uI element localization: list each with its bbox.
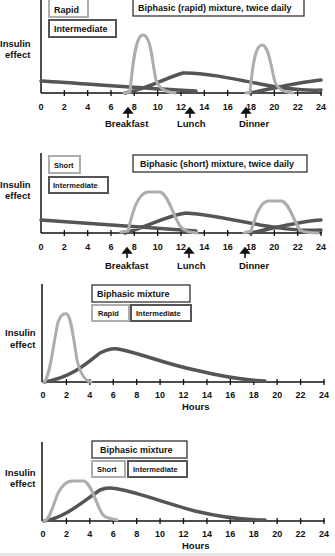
x-tick-label: 24 — [319, 529, 329, 539]
x-tick-label: 20 — [269, 242, 279, 252]
x-tick-label: 2 — [64, 529, 69, 539]
chart-4-short-mixture: 024681012141618202224 Insulin effect Hou… — [5, 441, 329, 551]
y-axis-label-line2: effect — [10, 339, 36, 350]
x-tick-label: 10 — [153, 102, 163, 112]
event-label-dinner: Dinner — [239, 260, 269, 271]
x-tick-label: 8 — [134, 529, 139, 539]
x-tick-label: 12 — [176, 242, 186, 252]
intermediate-curve — [41, 213, 321, 233]
chart-title: Biphasic (rapid) mixture, twice daily — [138, 3, 292, 13]
x-tick-label: 22 — [296, 390, 306, 400]
chart-title: Biphasic (short) mixture, twice daily — [140, 159, 294, 169]
legend-intermediate-label: Intermediate — [53, 181, 98, 190]
x-tick-label: 2 — [64, 390, 69, 400]
x-tick-label: 16 — [223, 242, 233, 252]
arrow-up-icon — [185, 248, 193, 258]
x-tick-label: 14 — [202, 390, 212, 400]
y-axis-label-line2: effect — [5, 49, 31, 60]
y-axis-label-line2: effect — [10, 478, 36, 489]
x-tick-label: 24 — [316, 102, 326, 112]
event-label-breakfast: Breakfast — [105, 118, 149, 129]
chart-1-rapid-twice-daily: 024681012141618202224 Insulin effect Rap… — [0, 0, 326, 129]
x-tick-label: 16 — [225, 529, 235, 539]
x-tick-label: 14 — [199, 102, 209, 112]
chart-3-rapid-mixture: 024681012141618202224 Insulin effect Hou… — [5, 284, 329, 412]
x-tick-label: 8 — [132, 242, 137, 252]
x-tick-label: 24 — [316, 242, 326, 252]
x-tick-label: 6 — [108, 242, 113, 252]
x-tick-label: 0 — [40, 529, 45, 539]
x-tick-label: 10 — [153, 242, 163, 252]
x-tick-label: 4 — [87, 390, 92, 400]
y-axis-label-line1: Insulin — [0, 38, 31, 49]
legend-intermediate-label: Intermediate — [133, 465, 178, 474]
x-tick-label: 20 — [272, 529, 282, 539]
x-tick-label: 12 — [178, 529, 188, 539]
chart-title: Biphasic mixture — [100, 445, 173, 455]
x-axis-label: Hours — [182, 401, 209, 412]
x-tick-label: 10 — [155, 390, 165, 400]
x-tick-label: 0 — [38, 102, 43, 112]
x-axis-label: Hours — [182, 540, 209, 551]
x-tick-label: 20 — [269, 102, 279, 112]
event-label-dinner: Dinner — [239, 118, 269, 129]
x-tick-label: 16 — [225, 390, 235, 400]
chart-2-short-twice-daily: 024681012141618202224 Insulin effect Sho… — [0, 153, 326, 271]
x-tick-label: 6 — [108, 102, 113, 112]
y-axis-label-line1: Insulin — [5, 327, 36, 338]
legend-rapid-label: Rapid — [54, 5, 79, 15]
event-label-lunch: Lunch — [177, 118, 206, 129]
x-tick-label: 6 — [111, 529, 116, 539]
legend-rapid-label: Rapid — [98, 309, 119, 318]
x-tick-label: 2 — [62, 242, 67, 252]
x-tick-label: 4 — [85, 102, 90, 112]
x-tick-label: 12 — [178, 390, 188, 400]
event-label-lunch: Lunch — [177, 260, 206, 271]
x-tick-label: 14 — [202, 529, 212, 539]
x-tick-label: 0 — [38, 242, 43, 252]
y-axis-label-line1: Insulin — [5, 467, 36, 478]
y-axis-label-line2: effect — [5, 190, 31, 201]
arrow-up-icon — [123, 248, 131, 258]
x-tick-label: 16 — [223, 102, 233, 112]
x-tick-label: 18 — [249, 529, 259, 539]
x-tick-label: 18 — [249, 390, 259, 400]
legend-intermediate-label: Intermediate — [136, 309, 181, 318]
legend-short-label: Short — [97, 465, 117, 474]
x-tick-label: 4 — [87, 529, 92, 539]
x-tick-label: 14 — [199, 242, 209, 252]
event-label-breakfast: Breakfast — [105, 260, 149, 271]
x-tick-label: 6 — [111, 390, 116, 400]
intermediate-curve — [44, 488, 265, 521]
x-tick-label: 22 — [293, 102, 303, 112]
arrow-up-icon — [124, 108, 132, 118]
legend-intermediate-label: Intermediate — [54, 24, 108, 34]
x-tick-label: 22 — [296, 529, 306, 539]
x-tick-label: 4 — [85, 242, 90, 252]
x-tick-label: 0 — [40, 390, 45, 400]
x-tick-label: 10 — [155, 529, 165, 539]
rapid-curve — [44, 314, 91, 382]
y-axis-label-line1: Insulin — [0, 179, 31, 190]
x-tick-label: 12 — [176, 102, 186, 112]
x-tick-label: 20 — [272, 390, 282, 400]
x-tick-label: 22 — [293, 242, 303, 252]
insulin-charts-figure: 024681012141618202224 Insulin effect Rap… — [0, 0, 335, 556]
chart-title: Biphasic mixture — [97, 289, 170, 299]
x-tick-label: 2 — [62, 102, 67, 112]
x-tick-label: 24 — [319, 390, 329, 400]
arrow-up-icon — [186, 108, 194, 118]
legend-short-label: Short — [54, 161, 74, 170]
x-tick-label: 8 — [132, 102, 137, 112]
x-tick-label: 8 — [134, 390, 139, 400]
